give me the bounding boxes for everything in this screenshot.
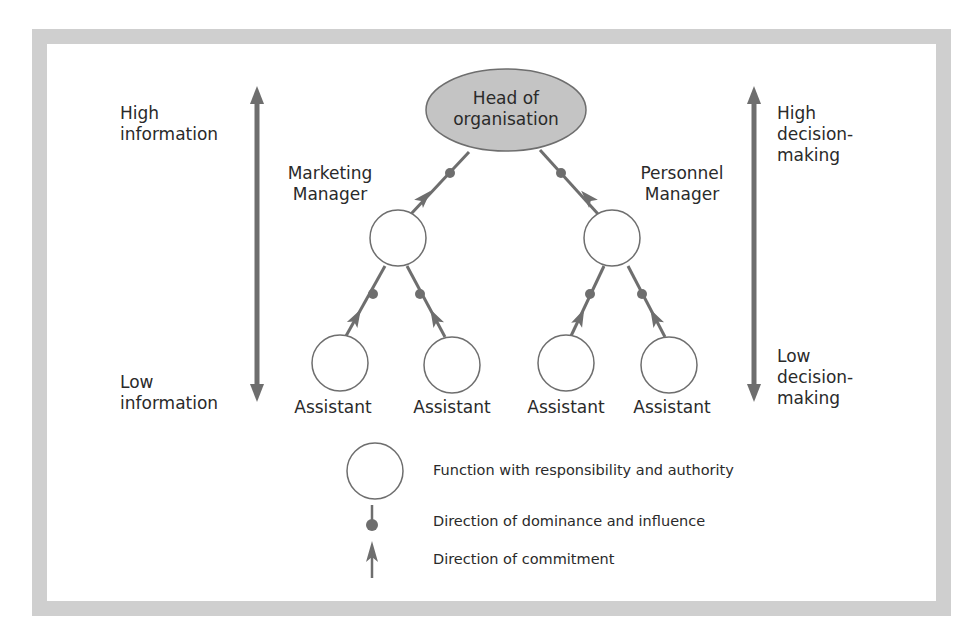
personnel-manager-line2: Manager bbox=[640, 184, 723, 205]
low-information-line2: information bbox=[120, 393, 218, 414]
high-decision-line3: making bbox=[777, 145, 853, 166]
personnel-manager-line1: Personnel bbox=[640, 163, 723, 184]
head-label-line2: organisation bbox=[453, 109, 559, 130]
decision-making-axis-arrow bbox=[747, 86, 761, 402]
low-decision-making-label: Low decision- making bbox=[777, 346, 853, 409]
legend-dominance-label: Direction of dominance and influence bbox=[433, 513, 705, 529]
high-information-line1: High bbox=[120, 103, 218, 124]
assistant-node-4 bbox=[641, 337, 697, 393]
arrow-commitment-icon bbox=[366, 541, 378, 578]
legend-commitment-label: Direction of commitment bbox=[433, 551, 614, 567]
assistant-node-2 bbox=[424, 337, 480, 393]
low-decision-line3: making bbox=[777, 388, 853, 409]
assistant-label-4: Assistant bbox=[633, 397, 710, 418]
marketing-manager-node bbox=[370, 210, 426, 266]
high-decision-line2: decision- bbox=[777, 124, 853, 145]
legend-function-label: Function with responsibility and authori… bbox=[433, 462, 734, 478]
marketing-manager-line1: Marketing bbox=[288, 163, 373, 184]
personnel-manager-label: Personnel Manager bbox=[640, 163, 723, 205]
assistant-node-1 bbox=[312, 335, 368, 391]
high-information-label: High information bbox=[120, 103, 218, 145]
assistant-label-2: Assistant bbox=[413, 397, 490, 418]
high-information-line2: information bbox=[120, 124, 218, 145]
assistant-label-1: Assistant bbox=[294, 397, 371, 418]
dot-dominance-icon bbox=[366, 505, 378, 531]
assistant-label-3: Assistant bbox=[527, 397, 604, 418]
high-decision-line1: High bbox=[777, 103, 853, 124]
head-of-organisation-label: Head of organisation bbox=[453, 88, 559, 130]
assistant-node-3 bbox=[538, 335, 594, 391]
personnel-manager-node bbox=[584, 210, 640, 266]
low-information-label: Low information bbox=[120, 372, 218, 414]
information-axis-arrow bbox=[250, 86, 264, 402]
low-decision-line1: Low bbox=[777, 346, 853, 367]
low-information-line1: Low bbox=[120, 372, 218, 393]
circle-icon bbox=[347, 443, 403, 499]
head-label-line1: Head of bbox=[453, 88, 559, 109]
high-decision-making-label: High decision- making bbox=[777, 103, 853, 166]
marketing-manager-line2: Manager bbox=[288, 184, 373, 205]
low-decision-line2: decision- bbox=[777, 367, 853, 388]
marketing-manager-label: Marketing Manager bbox=[288, 163, 373, 205]
